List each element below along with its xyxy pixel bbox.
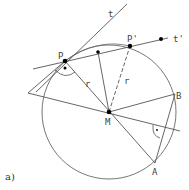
figure-caption: a): [5, 171, 15, 182]
label-pprime: P': [127, 34, 138, 44]
line-mid-m: [98, 52, 109, 112]
point-m: [107, 110, 112, 115]
line-b-a: [155, 94, 175, 163]
angle-dot-right: [156, 129, 158, 131]
label-p: P: [58, 51, 64, 61]
point-midchord: [96, 50, 100, 54]
point-pprime: [128, 44, 132, 48]
line-m-b: [109, 94, 175, 112]
label-b: B: [176, 91, 181, 101]
point-t-prime: [159, 37, 163, 41]
label-a: A: [152, 167, 158, 177]
angle-dot-p: [64, 67, 67, 70]
label-m: M: [105, 117, 111, 127]
label-t-prime: t': [173, 34, 184, 44]
label-radius-1: r: [85, 79, 91, 89]
angle-arc-right: [153, 125, 160, 138]
geometry-diagram: P P' M B A t t' r r a): [0, 0, 189, 190]
label-radius-2: r: [124, 76, 130, 86]
label-t: t: [108, 9, 113, 19]
